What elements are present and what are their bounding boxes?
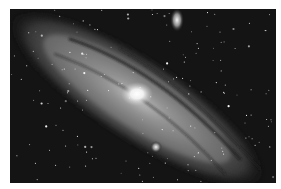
star xyxy=(37,179,38,180)
star xyxy=(216,82,217,83)
satellite-galaxy-lower xyxy=(150,141,162,153)
star xyxy=(69,52,70,53)
star xyxy=(173,78,174,79)
star xyxy=(167,107,168,108)
star xyxy=(232,28,234,30)
star xyxy=(194,127,195,128)
star xyxy=(65,100,67,102)
star xyxy=(16,155,17,156)
star xyxy=(196,53,197,54)
star xyxy=(121,83,122,84)
star xyxy=(60,107,61,108)
star xyxy=(75,68,76,69)
star xyxy=(81,53,83,55)
galaxy-photo xyxy=(10,9,276,183)
star xyxy=(101,10,102,11)
star xyxy=(87,90,88,91)
star xyxy=(166,62,168,64)
star xyxy=(271,121,272,122)
star xyxy=(138,168,139,169)
star xyxy=(224,93,225,94)
star xyxy=(62,130,63,131)
star xyxy=(153,177,154,178)
star xyxy=(189,85,190,86)
star xyxy=(225,85,226,86)
star xyxy=(142,119,143,120)
star xyxy=(157,13,158,14)
star xyxy=(33,51,34,52)
star xyxy=(270,119,271,120)
star xyxy=(11,74,12,75)
star xyxy=(249,23,250,24)
star xyxy=(122,83,123,84)
star xyxy=(28,32,29,33)
star xyxy=(269,14,270,15)
star xyxy=(86,100,87,101)
star xyxy=(62,69,63,70)
star xyxy=(127,13,129,15)
star xyxy=(265,30,266,31)
star xyxy=(169,13,170,14)
star xyxy=(163,69,164,70)
star xyxy=(150,96,151,97)
star xyxy=(29,144,30,145)
star xyxy=(65,145,66,146)
star xyxy=(137,92,138,93)
star xyxy=(213,48,214,49)
star xyxy=(166,24,167,25)
star xyxy=(41,35,43,37)
star xyxy=(133,72,134,73)
star xyxy=(97,29,98,30)
star xyxy=(83,72,85,74)
star xyxy=(14,55,15,56)
star xyxy=(190,80,191,81)
star xyxy=(108,90,109,91)
star xyxy=(47,103,48,104)
star xyxy=(89,24,90,25)
star xyxy=(207,12,208,13)
star xyxy=(86,57,87,58)
star xyxy=(185,57,186,58)
star xyxy=(248,136,249,137)
star xyxy=(77,100,78,101)
star xyxy=(35,163,36,164)
star xyxy=(219,32,220,33)
star xyxy=(188,170,189,171)
star xyxy=(45,125,47,127)
star xyxy=(246,115,247,116)
satellite-galaxy-upper xyxy=(170,9,184,32)
star xyxy=(268,90,269,91)
star xyxy=(125,160,126,161)
star xyxy=(111,47,112,48)
star xyxy=(84,146,86,148)
star xyxy=(173,130,174,131)
star xyxy=(151,9,152,10)
star xyxy=(21,79,22,80)
star xyxy=(94,29,95,30)
star xyxy=(83,20,84,21)
star xyxy=(86,152,87,153)
star xyxy=(213,60,214,61)
star xyxy=(85,166,86,167)
star xyxy=(69,167,70,168)
star xyxy=(26,65,27,66)
star xyxy=(272,176,274,178)
star xyxy=(127,17,129,19)
star xyxy=(214,14,215,15)
star xyxy=(95,158,96,159)
star xyxy=(54,10,55,11)
star xyxy=(169,41,170,42)
star xyxy=(38,58,39,59)
star xyxy=(177,179,178,180)
star xyxy=(266,93,267,94)
star xyxy=(206,26,207,27)
star xyxy=(149,163,150,164)
star xyxy=(221,42,222,43)
star xyxy=(33,100,34,101)
star xyxy=(76,32,77,33)
star xyxy=(255,145,256,146)
star xyxy=(121,173,122,174)
star xyxy=(152,14,153,15)
star xyxy=(67,92,68,93)
star xyxy=(118,83,119,84)
